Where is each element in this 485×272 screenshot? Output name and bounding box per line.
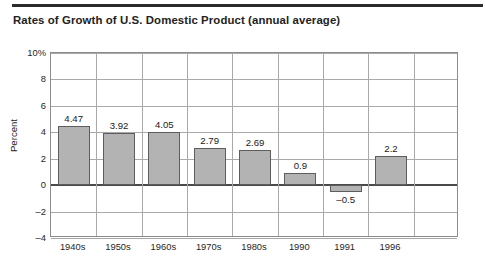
bar-value-label: 2.2	[384, 143, 397, 154]
bar-value-label: 0.9	[294, 160, 307, 171]
horizontal-gridline	[51, 79, 457, 80]
vertical-gridline	[323, 53, 324, 236]
horizontal-gridline	[51, 106, 457, 107]
bar-value-label: –0.5	[336, 194, 355, 205]
vertical-gridline	[232, 53, 233, 236]
y-axis-tick-labels: 10%86420–2–4	[0, 52, 46, 237]
x-axis-tick: 1991	[334, 241, 355, 252]
horizontal-gridline	[51, 212, 457, 213]
plot-area: 4.473.924.052.792.690.9–0.52.2	[50, 52, 458, 237]
bar	[330, 185, 362, 192]
y-axis-tick: 2	[2, 152, 46, 163]
y-axis-tick: 6	[2, 99, 46, 110]
vertical-gridline	[142, 53, 143, 236]
bar	[103, 133, 135, 185]
y-axis-tick: 10%	[2, 47, 46, 58]
y-axis-tick: –4	[2, 232, 46, 243]
bar-value-label: 4.05	[155, 119, 174, 130]
x-axis-tick: 1950s	[105, 241, 131, 252]
page-title: Rates of Growth of U.S. Domestic Product…	[13, 14, 340, 26]
x-axis-tick: 1980s	[241, 241, 267, 252]
x-axis-tick: 1996	[380, 241, 401, 252]
bar-value-label: 2.69	[246, 137, 265, 148]
bar	[58, 126, 90, 185]
y-axis-tick: 8	[2, 73, 46, 84]
bar-value-label: 4.47	[64, 113, 83, 124]
vertical-gridline	[368, 53, 369, 236]
y-axis-tick: 0	[2, 179, 46, 190]
bar	[239, 150, 271, 186]
vertical-gridline	[187, 53, 188, 236]
bar	[148, 132, 180, 186]
vertical-gridline	[278, 53, 279, 236]
x-axis-tick: 1970s	[196, 241, 222, 252]
vertical-gridline	[96, 53, 97, 236]
x-axis-tick: 1940s	[60, 241, 86, 252]
bar	[194, 148, 226, 185]
x-axis-tick-labels: 1940s1950s1960s1970s1980s199019911996	[50, 241, 458, 257]
y-axis-tick: 4	[2, 126, 46, 137]
vertical-gridline	[414, 53, 415, 236]
horizontal-gridline	[51, 238, 457, 239]
bar-value-label: 3.92	[110, 120, 129, 131]
header-rule	[12, 4, 483, 7]
x-axis-tick: 1960s	[151, 241, 177, 252]
horizontal-gridline	[51, 53, 457, 54]
bar-value-label: 2.79	[200, 135, 219, 146]
x-axis-tick: 1990	[289, 241, 310, 252]
y-axis-tick: –2	[2, 205, 46, 216]
bar	[375, 156, 407, 185]
bar	[284, 173, 316, 185]
